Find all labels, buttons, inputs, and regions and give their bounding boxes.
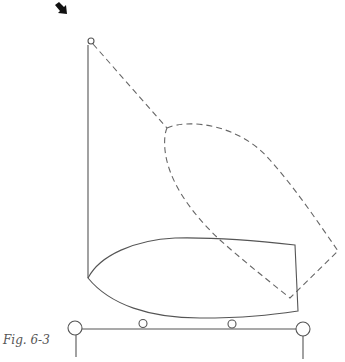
mast-pivot-circle xyxy=(88,38,94,44)
figure-caption: Fig. 6-3 xyxy=(3,333,50,347)
arrow-down-right-icon xyxy=(55,2,67,14)
trailer-roller-left xyxy=(139,320,147,328)
trailer-wheel-right xyxy=(296,322,310,336)
trailer-wheel-left xyxy=(68,321,82,335)
boat-trailer-diagram xyxy=(0,0,345,362)
boat-hull xyxy=(88,238,298,318)
tether-dashed-line xyxy=(93,44,167,128)
trailer-roller-right xyxy=(228,320,236,328)
tilted-hull-outline xyxy=(165,124,338,298)
